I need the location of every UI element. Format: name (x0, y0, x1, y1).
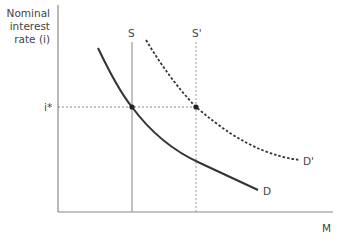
y-axis-label-line-3: rate (i) (7, 33, 50, 46)
demand-curve-d-prime (146, 40, 300, 160)
demand-label-d-prime: D' (303, 155, 314, 167)
y-axis-label: Nominal interest rate (i) (7, 7, 50, 46)
supply-label-s: S (128, 27, 135, 39)
y-axis-label-line-1: Nominal (7, 7, 50, 20)
x-axis-label: M (322, 222, 331, 234)
y-axis-label-line-2: interest (7, 20, 50, 33)
equilibrium-point-original (129, 104, 134, 109)
money-market-diagram (0, 0, 345, 242)
demand-curve-d (98, 48, 258, 190)
i-star-label: i* (44, 101, 52, 113)
supply-label-s-prime: S' (192, 27, 202, 39)
demand-label-d: D (263, 185, 271, 197)
equilibrium-point-new (193, 104, 198, 109)
